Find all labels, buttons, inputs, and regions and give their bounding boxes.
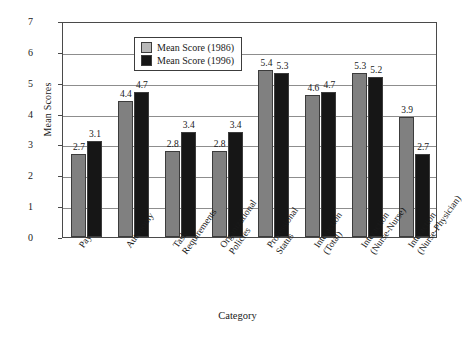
bar-gray [118, 101, 133, 237]
y-tick-label-7: 7 [7, 17, 33, 27]
y-tick-label-6: 6 [7, 48, 33, 58]
bar-value-label: 4.7 [127, 80, 157, 90]
y-tick-label-1: 1 [7, 202, 33, 212]
legend-label-1986: Mean Score (1986) [157, 41, 234, 54]
bar-group: 2.73.1 [71, 23, 102, 237]
bar-value-label: 2.7 [408, 142, 438, 152]
bar-chart: Mean Scores 76543210 2.73.14.44.72.83.42… [0, 0, 475, 340]
legend-label-1996: Mean Score (1996) [157, 54, 234, 67]
x-axis-title: Category [0, 310, 475, 321]
bar-gray [212, 151, 227, 237]
legend-item-1986: Mean Score (1986) [141, 41, 234, 54]
legend-swatch-gray-icon [141, 42, 152, 53]
chart-legend: Mean Score (1986) Mean Score (1996) [134, 37, 242, 71]
y-tick-label-3: 3 [7, 140, 33, 150]
legend-swatch-black-icon [141, 55, 152, 66]
legend-item-1996: Mean Score (1996) [141, 54, 234, 67]
bar-value-label: 3.1 [80, 129, 110, 139]
y-tick-mark-0 [58, 238, 62, 239]
bar-gray [165, 151, 180, 237]
bar-group: 5.45.3 [258, 23, 289, 237]
bar-value-label: 3.4 [221, 120, 251, 130]
bar-group: 4.64.7 [305, 23, 336, 237]
bar-group: 5.35.2 [352, 23, 383, 237]
bar-value-label: 5.3 [267, 61, 297, 71]
bar-value-label: 3.4 [174, 120, 204, 130]
y-tick-label-4: 4 [7, 110, 33, 120]
bar-black [87, 141, 102, 237]
bar-value-label: 5.2 [361, 65, 391, 75]
y-tick-label-0: 0 [7, 233, 33, 243]
bar-group: 3.92.7 [399, 23, 430, 237]
y-tick-label-5: 5 [7, 79, 33, 89]
y-tick-label-2: 2 [7, 171, 33, 181]
bar-gray [352, 73, 367, 237]
bar-gray [71, 154, 86, 237]
bar-value-label: 4.7 [314, 80, 344, 90]
y-axis-title: Mean Scores [42, 65, 53, 155]
bar-value-label: 3.9 [392, 105, 422, 115]
